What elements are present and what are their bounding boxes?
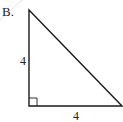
option-label: B. (2, 4, 14, 19)
horizontal-side-label: 4 (73, 109, 79, 122)
right-angle-marker (29, 98, 37, 106)
vertical-side-label: 4 (20, 54, 26, 68)
right-triangle-diagram: B. 4 4 (0, 0, 123, 122)
triangle (29, 10, 122, 106)
